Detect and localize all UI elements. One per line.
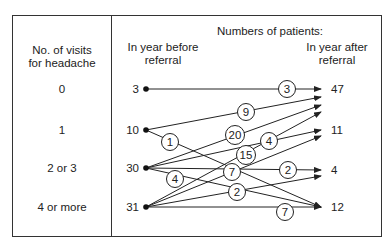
flow-count: 4 [266, 135, 273, 147]
source-dot [143, 204, 149, 210]
flow-count: 1 [167, 136, 173, 148]
flow-count: 2 [234, 186, 240, 198]
before-count-2: 30 [126, 162, 139, 174]
flow-diagram: 3 10 30 31 47 11 4 12 3 9 1 20 4 2 4 15 … [0, 0, 386, 251]
flow-count: 2 [285, 164, 291, 176]
flow-count: 3 [284, 83, 290, 95]
flow-count: 7 [282, 206, 288, 218]
flow-count: 4 [172, 173, 179, 185]
after-count-3: 12 [331, 201, 344, 213]
before-count-3: 31 [126, 201, 139, 213]
source-dot [143, 165, 149, 171]
flow-line [146, 97, 321, 130]
flow-count: 20 [229, 129, 242, 141]
after-count-2: 4 [331, 164, 338, 176]
source-dot [143, 86, 149, 92]
after-count-0: 47 [331, 83, 344, 95]
flow-count: 7 [229, 166, 235, 178]
flow-count: 15 [240, 149, 253, 161]
before-count-1: 10 [126, 124, 139, 136]
after-count-1: 11 [331, 124, 343, 136]
source-dot [143, 127, 149, 133]
flow-count: 9 [243, 106, 249, 118]
before-count-0: 3 [133, 83, 139, 95]
